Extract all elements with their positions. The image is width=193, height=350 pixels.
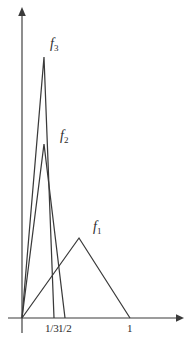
x-axis-arrow-icon bbox=[176, 314, 184, 322]
plot-svg bbox=[0, 0, 193, 350]
x-axis-group bbox=[8, 314, 184, 322]
curve-label-f2-sub: 2 bbox=[64, 135, 69, 145]
curve-label-f3-sub: 3 bbox=[54, 43, 59, 53]
x-tick-label-one-third: 1/3 bbox=[45, 323, 58, 334]
curves-group bbox=[22, 57, 130, 318]
curve-label-f3: f3 bbox=[50, 37, 58, 51]
curve-label-f1-sub: 1 bbox=[97, 226, 102, 236]
curve-f1 bbox=[22, 238, 130, 318]
x-tick-label-one-half: 1/2 bbox=[58, 323, 71, 334]
curve-label-f2: f2 bbox=[60, 129, 68, 143]
figure-canvas: 1/3 1/2 1 f3 f2 f1 bbox=[0, 0, 193, 350]
x-tick-label-one: 1 bbox=[127, 323, 132, 334]
y-axis-arrow-icon bbox=[18, 7, 26, 16]
curve-label-f1: f1 bbox=[93, 220, 101, 234]
curve-f2 bbox=[22, 144, 65, 318]
